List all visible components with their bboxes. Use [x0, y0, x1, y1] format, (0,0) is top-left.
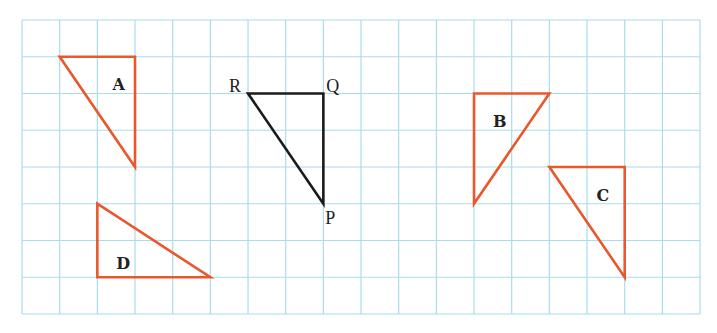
triangle-label-d: D	[116, 254, 130, 273]
labels-layer: ABCDRQP	[111, 75, 609, 272]
vertex-label-p: P	[325, 208, 335, 228]
triangle-label-b: B	[493, 112, 507, 131]
vertex-label-q: Q	[326, 76, 339, 96]
triangle-label-c: C	[596, 186, 609, 205]
triangle-label-a: A	[111, 75, 125, 94]
grid-diagram: ABCDRQP	[0, 0, 717, 333]
vertex-label-r: R	[229, 76, 241, 96]
